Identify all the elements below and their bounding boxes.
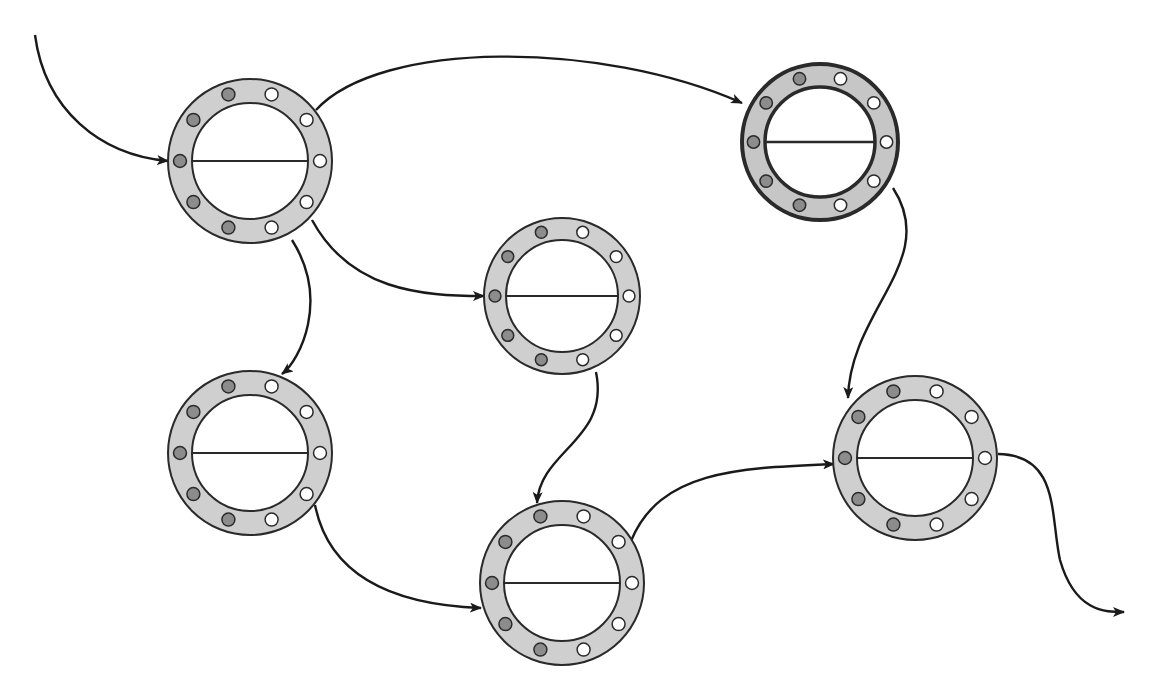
edge-arrow-n3-to-n5	[537, 372, 598, 503]
ring-node-n5	[480, 501, 644, 665]
dark-dot-icon	[499, 535, 512, 548]
dark-dot-icon	[760, 175, 772, 187]
light-dot-icon	[834, 73, 846, 85]
edge-arrow-n1-to-n3	[312, 220, 484, 296]
light-dot-icon	[265, 513, 278, 526]
dark-dot-icon	[887, 518, 900, 531]
dark-dot-icon	[222, 88, 235, 101]
dark-dot-icon	[187, 196, 200, 209]
dark-dot-icon	[187, 405, 200, 418]
light-dot-icon	[577, 510, 590, 523]
edge-arrow-n1-to-n4	[282, 240, 310, 374]
light-dot-icon	[314, 447, 327, 460]
light-dot-icon	[577, 643, 590, 656]
light-dot-icon	[612, 618, 625, 631]
dark-dot-icon	[839, 452, 852, 465]
light-dot-icon	[300, 488, 313, 501]
dark-dot-icon	[486, 577, 499, 590]
light-dot-icon	[314, 155, 327, 168]
dark-dot-icon	[747, 136, 759, 148]
light-dot-icon	[868, 97, 880, 109]
dark-dot-icon	[174, 447, 187, 460]
dark-dot-icon	[499, 618, 512, 631]
light-dot-icon	[577, 354, 589, 366]
light-dot-icon	[265, 88, 278, 101]
light-dot-icon	[265, 221, 278, 234]
edge-arrow-n6-to-end	[998, 454, 1124, 612]
light-dot-icon	[623, 290, 635, 302]
dark-dot-icon	[535, 354, 547, 366]
dark-dot-icon	[222, 513, 235, 526]
ring-node-n1	[168, 79, 332, 243]
light-dot-icon	[834, 199, 846, 211]
dark-dot-icon	[535, 226, 547, 238]
dark-dot-icon	[187, 113, 200, 126]
edge-arrow-n4-to-n5	[315, 505, 481, 608]
light-dot-icon	[610, 329, 622, 341]
dark-dot-icon	[222, 221, 235, 234]
light-dot-icon	[610, 251, 622, 263]
dark-dot-icon	[534, 510, 547, 523]
edge-arrow-start-to-n1	[35, 35, 168, 161]
light-dot-icon	[612, 535, 625, 548]
ring-node-n2	[742, 64, 898, 220]
dark-dot-icon	[887, 385, 900, 398]
light-dot-icon	[577, 226, 589, 238]
network-diagram	[0, 0, 1157, 694]
dark-dot-icon	[489, 290, 501, 302]
dark-dot-icon	[187, 488, 200, 501]
light-dot-icon	[626, 577, 639, 590]
light-dot-icon	[880, 136, 892, 148]
edge-arrow-n5-to-n6	[631, 464, 834, 541]
light-dot-icon	[930, 385, 943, 398]
light-dot-icon	[265, 380, 278, 393]
dark-dot-icon	[222, 380, 235, 393]
dark-dot-icon	[534, 643, 547, 656]
light-dot-icon	[300, 113, 313, 126]
light-dot-icon	[300, 405, 313, 418]
edge-arrow-n2-to-n6	[848, 188, 907, 398]
light-dot-icon	[300, 196, 313, 209]
light-dot-icon	[868, 175, 880, 187]
dark-dot-icon	[502, 329, 514, 341]
dark-dot-icon	[760, 97, 772, 109]
dark-dot-icon	[793, 73, 805, 85]
light-dot-icon	[965, 493, 978, 506]
ring-node-n4	[168, 371, 332, 535]
ring-node-n6	[833, 376, 997, 540]
dark-dot-icon	[174, 155, 187, 168]
dark-dot-icon	[852, 410, 865, 423]
light-dot-icon	[930, 518, 943, 531]
dark-dot-icon	[852, 493, 865, 506]
dark-dot-icon	[793, 199, 805, 211]
light-dot-icon	[979, 452, 992, 465]
dark-dot-icon	[502, 251, 514, 263]
edge-arrow-n1-to-n2	[316, 57, 742, 110]
ring-node-n3	[484, 218, 640, 374]
light-dot-icon	[965, 410, 978, 423]
